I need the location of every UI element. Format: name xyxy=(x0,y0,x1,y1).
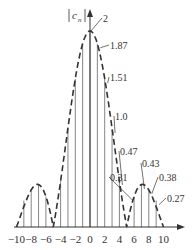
x-tick-label: 10 xyxy=(158,233,170,245)
y-label-base: c xyxy=(72,9,77,21)
x-tick-label: 4 xyxy=(117,233,123,245)
value-label: 0.38 xyxy=(159,172,177,183)
x-tick-label: −2 xyxy=(69,233,81,245)
value-label: 0.27 xyxy=(167,193,185,204)
value-label: 0.31 xyxy=(110,172,128,183)
y-axis-label: c n xyxy=(69,9,85,24)
value-label: 1.87 xyxy=(110,40,128,51)
x-tick-label: −8 xyxy=(25,233,37,245)
value-label: 2 xyxy=(103,13,108,24)
x-tick-label: −4 xyxy=(55,233,67,245)
value-label: 0.43 xyxy=(142,158,160,169)
x-tick-labels: −10−8−6−4−20246810 xyxy=(8,233,170,245)
value-label: 1.0 xyxy=(115,111,128,122)
x-tick-label: 2 xyxy=(102,233,108,245)
y-axis-arrow-icon xyxy=(87,9,93,17)
y-label-sub: n xyxy=(78,16,82,24)
x-tick-label: 6 xyxy=(131,233,137,245)
x-tick-label: −10 xyxy=(8,233,26,245)
line-spectrum-chart: c n −10−8−6−4−20246810 21.871.511.00.470… xyxy=(0,0,196,250)
x-tick-label: 0 xyxy=(87,233,93,245)
x-axis-arrow-icon xyxy=(177,224,185,230)
value-annotations: 21.871.511.00.470.310.430.380.27 xyxy=(90,13,185,205)
value-label: 0.47 xyxy=(120,146,138,157)
x-tick-label: 8 xyxy=(146,233,152,245)
x-tick-label: −6 xyxy=(40,233,52,245)
value-label: 1.51 xyxy=(110,72,128,83)
